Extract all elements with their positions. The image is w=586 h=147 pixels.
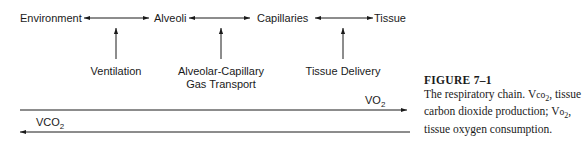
node-capillaries: Capillaries <box>257 12 309 24</box>
node-tissue: Tissue <box>374 12 406 24</box>
caption-title: FIGURE 7–1 <box>424 74 586 88</box>
vo2-label: VO2 <box>365 94 386 109</box>
figure-caption: FIGURE 7–1 The respiratory chain. Vco2, … <box>424 74 586 137</box>
process-alveolar-capillary-line1: Alveolar-Capillary <box>178 65 265 77</box>
process-alveolar-capillary-line2: Gas Transport <box>186 78 256 90</box>
process-tissue-delivery: Tissue Delivery <box>306 65 381 77</box>
vco2-label: VCO2 <box>36 116 65 131</box>
node-alveoli: Alveoli <box>154 12 186 24</box>
node-environment: Environment <box>20 12 82 24</box>
process-ventilation: Ventilation <box>91 65 142 77</box>
caption-body: The respiratory chain. Vco2, tissue carb… <box>424 88 586 137</box>
